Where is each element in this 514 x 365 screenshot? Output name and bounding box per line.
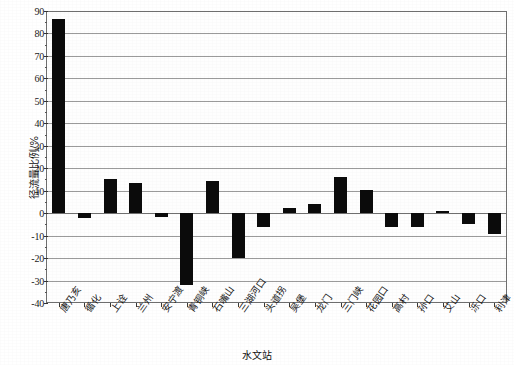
y-minor-tick	[45, 157, 47, 158]
gridline	[47, 236, 506, 237]
gridline	[47, 56, 506, 57]
y-minor-tick	[45, 292, 47, 293]
bar	[462, 213, 475, 224]
bar	[257, 213, 270, 226]
gridline	[47, 78, 506, 79]
y-minor-tick	[45, 179, 47, 180]
bar-chart-figure: 9080706050403020100-10-20-30-40 唐乃亥循化上诠兰…	[0, 0, 514, 365]
bar	[411, 213, 424, 226]
y-minor-tick	[45, 112, 47, 113]
y-tick-mark	[44, 146, 48, 147]
gridline	[47, 101, 506, 102]
y-tick-mark	[44, 101, 48, 102]
plot-area	[46, 11, 507, 303]
y-tick-mark	[44, 303, 48, 304]
y-tick-mark	[44, 56, 48, 57]
y-tick-label: 90	[34, 6, 44, 17]
y-tick-label: -40	[31, 298, 44, 309]
y-tick-mark	[44, 11, 48, 12]
bar	[232, 213, 245, 258]
y-minor-tick	[45, 67, 47, 68]
bar	[436, 211, 449, 213]
y-tick-mark	[44, 123, 48, 124]
gridline	[47, 258, 506, 259]
y-tick-mark	[44, 168, 48, 169]
gridline	[47, 146, 506, 147]
y-minor-tick	[45, 45, 47, 46]
bar	[206, 181, 219, 214]
gridline	[47, 213, 506, 214]
y-minor-tick	[45, 247, 47, 248]
y-tick-label: 50	[34, 95, 44, 106]
y-tick-label: -30	[31, 275, 44, 286]
y-tick-label: 80	[34, 28, 44, 39]
y-tick-label: 60	[34, 73, 44, 84]
y-minor-tick	[45, 269, 47, 270]
gridline	[47, 33, 506, 34]
y-tick-mark	[44, 33, 48, 34]
y-minor-tick	[45, 22, 47, 23]
bar	[52, 19, 65, 213]
y-minor-tick	[45, 224, 47, 225]
bar	[155, 213, 168, 216]
bar	[308, 204, 321, 213]
bar	[78, 213, 91, 217]
gridline	[47, 168, 506, 169]
gridline	[47, 281, 506, 282]
y-minor-tick	[45, 202, 47, 203]
y-tick-mark	[44, 78, 48, 79]
bar	[334, 177, 347, 213]
y-tick-label: 70	[34, 50, 44, 61]
y-minor-tick	[45, 135, 47, 136]
bar	[488, 213, 501, 234]
bar	[283, 208, 296, 214]
y-tick-label: 40	[34, 118, 44, 129]
y-tick-mark	[44, 281, 48, 282]
y-tick-mark	[44, 236, 48, 237]
y-tick-label: -20	[31, 253, 44, 264]
bar	[385, 213, 398, 226]
bar	[180, 213, 193, 285]
y-tick-mark	[44, 191, 48, 192]
x-axis-title: 水文站	[0, 347, 514, 362]
gridline	[47, 123, 506, 124]
y-tick-mark	[44, 213, 48, 214]
bar	[104, 179, 117, 213]
bar	[360, 190, 373, 214]
y-axis-title: 径流量比例/%	[26, 136, 41, 199]
y-minor-tick	[45, 90, 47, 91]
y-tick-mark	[44, 258, 48, 259]
y-tick-label: -10	[31, 230, 44, 241]
bar	[129, 183, 142, 213]
